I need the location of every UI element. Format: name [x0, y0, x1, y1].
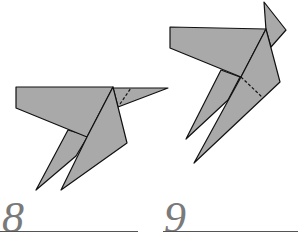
- origami-diagram: [0, 0, 298, 242]
- step-number-8: 8: [2, 196, 24, 240]
- step-9-figure: [170, 2, 286, 163]
- step-8-rule: [0, 231, 138, 232]
- step-number-9: 9: [164, 196, 186, 240]
- step-8-head: [113, 88, 168, 107]
- step-8-figure: [16, 87, 168, 190]
- step-9-rule: [163, 231, 298, 232]
